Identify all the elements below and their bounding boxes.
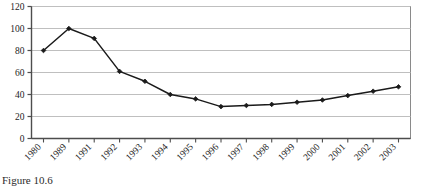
x-axis-tick-label: 2000 (301, 142, 322, 163)
figure-caption: Figure 10.6 (2, 174, 202, 188)
x-axis-tick-label: 1998 (251, 142, 272, 163)
x-axis: 1980198919911992199319941995199619971998… (22, 139, 410, 163)
x-axis-tick-label: 1995 (175, 142, 196, 163)
x-axis-tick-label: 1996 (200, 142, 221, 163)
y-axis-tick-label: 0 (20, 134, 25, 144)
x-axis-tick-label: 2003 (377, 142, 398, 163)
y-axis-tick-label: 40 (15, 90, 25, 100)
x-axis-tick-label: 1994 (149, 142, 170, 163)
x-axis-tick-label: 2002 (352, 142, 373, 163)
y-axis-tick-label: 80 (15, 46, 25, 56)
x-axis-tick-label: 1980 (22, 142, 43, 163)
x-axis-tick-label: 2001 (327, 142, 348, 163)
y-axis-tick-label: 120 (10, 2, 25, 12)
x-axis-tick-label: 1999 (276, 142, 297, 163)
y-axis: 020406080100120 (10, 2, 31, 144)
line-chart: 020406080100120 198019891991199219931994… (0, 0, 421, 170)
x-axis-tick-label: 1992 (98, 142, 119, 163)
x-axis-tick-label: 1991 (73, 142, 94, 163)
y-axis-tick-label: 100 (10, 24, 25, 34)
x-axis-tick-label: 1993 (124, 142, 145, 163)
y-axis-tick-label: 20 (15, 112, 25, 122)
x-axis-tick-label: 1997 (225, 142, 246, 163)
x-axis-tick-label: 1989 (48, 142, 69, 163)
figure-container: 020406080100120 198019891991199219931994… (0, 0, 421, 188)
chart-svg: 020406080100120 198019891991199219931994… (0, 0, 421, 170)
y-axis-tick-label: 60 (15, 68, 25, 78)
